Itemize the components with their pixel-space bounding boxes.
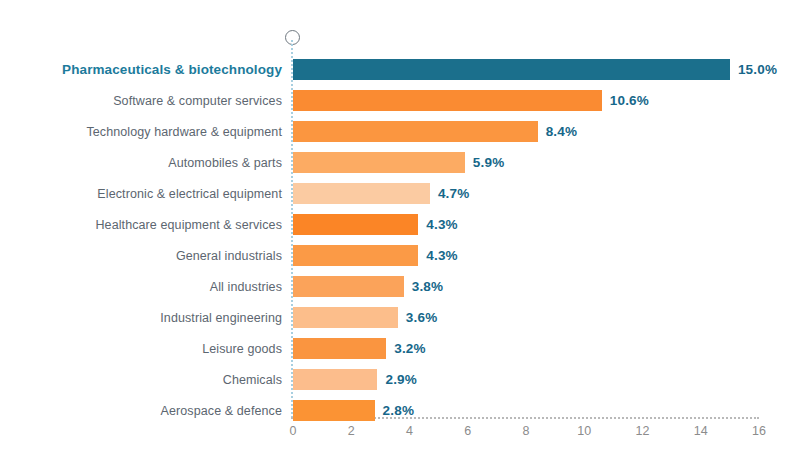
bar-and-value: 3.6% <box>293 307 437 328</box>
bar-value-label: 4.7% <box>438 186 470 201</box>
bar-and-value: 4.7% <box>293 183 469 204</box>
bar-row: General industrials4.3% <box>0 240 810 271</box>
category-label: Healthcare equipment & services <box>22 218 282 232</box>
x-tick-label: 16 <box>739 424 779 438</box>
bar-value-label: 5.9% <box>473 155 505 170</box>
bar-row: Electronic & electrical equipment4.7% <box>0 178 810 209</box>
bar-row: Automobiles & parts5.9% <box>0 147 810 178</box>
bar-and-value: 15.0% <box>293 59 777 80</box>
bar-row: Healthcare equipment & services4.3% <box>0 209 810 240</box>
bar-value-label: 8.4% <box>546 124 578 139</box>
bar <box>293 152 465 173</box>
bar-and-value: 4.3% <box>293 245 458 266</box>
x-tick-label: 4 <box>390 424 430 438</box>
x-axis-tick-labels: 0246810121416 <box>0 424 810 448</box>
bar <box>293 245 418 266</box>
bar <box>293 59 730 80</box>
category-label: Aerospace & defence <box>22 404 282 418</box>
category-label: Technology hardware & equipment <box>22 125 282 139</box>
category-label: General industrials <box>22 249 282 263</box>
bar-and-value: 2.8% <box>293 400 414 421</box>
bar-value-label: 10.6% <box>610 93 649 108</box>
bar-row: Chemicals2.9% <box>0 364 810 395</box>
bar-row: Software & computer services10.6% <box>0 85 810 116</box>
bar-row: Leisure goods3.2% <box>0 333 810 364</box>
category-label: Pharmaceuticals & biotechnology <box>22 62 282 77</box>
category-label: Software & computer services <box>22 94 282 108</box>
category-label: Industrial engineering <box>22 311 282 325</box>
bar-row: All industries3.8% <box>0 271 810 302</box>
bar <box>293 400 375 421</box>
x-tick-label: 10 <box>564 424 604 438</box>
bar <box>293 90 602 111</box>
plot-area: Pharmaceuticals & biotechnology15.0%Soft… <box>0 0 810 461</box>
bar <box>293 369 377 390</box>
category-label: Electronic & electrical equipment <box>22 187 282 201</box>
bar <box>293 121 538 142</box>
bar <box>293 276 404 297</box>
bar <box>293 183 430 204</box>
x-tick-label: 0 <box>273 424 313 438</box>
bar-and-value: 3.8% <box>293 276 443 297</box>
bar-and-value: 10.6% <box>293 90 649 111</box>
category-label: Automobiles & parts <box>22 156 282 170</box>
bar-and-value: 2.9% <box>293 369 417 390</box>
bar-value-label: 3.2% <box>394 341 426 356</box>
bar-row: Industrial engineering3.6% <box>0 302 810 333</box>
bar-and-value: 3.2% <box>293 338 426 359</box>
bar-value-label: 3.8% <box>412 279 444 294</box>
bar-value-label: 2.9% <box>385 372 417 387</box>
bar-row: Technology hardware & equipment8.4% <box>0 116 810 147</box>
bar-row: Aerospace & defence2.8% <box>0 395 810 426</box>
x-tick-label: 14 <box>681 424 721 438</box>
bar-value-label: 3.6% <box>406 310 438 325</box>
x-tick-label: 2 <box>331 424 371 438</box>
x-tick-label: 8 <box>506 424 546 438</box>
bar-value-label: 2.8% <box>383 403 415 418</box>
bar-value-label: 4.3% <box>426 217 458 232</box>
bar <box>293 214 418 235</box>
bar-and-value: 4.3% <box>293 214 458 235</box>
x-tick-label: 6 <box>448 424 488 438</box>
bar-rows: Pharmaceuticals & biotechnology15.0%Soft… <box>0 54 810 426</box>
category-label: All industries <box>22 280 282 294</box>
category-label: Leisure goods <box>22 342 282 356</box>
bar <box>293 307 398 328</box>
bar-and-value: 5.9% <box>293 152 504 173</box>
x-tick-label: 12 <box>623 424 663 438</box>
bar-value-label: 15.0% <box>738 62 777 77</box>
bar-value-label: 4.3% <box>426 248 458 263</box>
bar-and-value: 8.4% <box>293 121 577 142</box>
horizontal-bar-chart: Pharmaceuticals & biotechnology15.0%Soft… <box>0 0 810 461</box>
bar <box>293 338 386 359</box>
bar-row: Pharmaceuticals & biotechnology15.0% <box>0 54 810 85</box>
category-label: Chemicals <box>22 373 282 387</box>
